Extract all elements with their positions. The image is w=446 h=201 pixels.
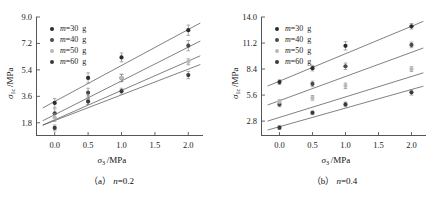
y-tick-label: 7.2 [6,39,32,48]
x-tick-label: 0.5 [76,141,100,150]
legend-item: m=50 g [275,45,311,56]
figure-two-panel-scatter: 1.83.65.47.29.00.00.51.01.52.0 m=30 gm=4… [0,0,446,201]
legend-a: m=30 gm=40 gm=50 gm=60 g [50,23,86,67]
legend-marker-icon [275,49,279,53]
legend-marker-icon [275,27,279,31]
plot-canvas-b [223,0,446,201]
panel-a: 1.83.65.47.29.00.00.51.01.52.0 m=30 gm=4… [0,0,223,201]
panel-caption-b: （b） n=0.4 [223,174,446,187]
y-tick-label: 9.0 [6,13,32,22]
legend-marker-icon [275,38,279,42]
legend-label: m=50 g [285,47,311,55]
legend-marker-icon [50,49,54,53]
legend-item: m=60 g [275,56,311,67]
x-tick-label: 0.0 [267,141,291,150]
legend-item: m=50 g [50,45,86,56]
legend-marker-icon [275,60,279,64]
legend-marker-icon [50,60,54,64]
legend-label: m=60 g [285,58,311,66]
legend-item: m=60 g [50,56,86,67]
x-tick-label: 1.0 [110,141,134,150]
x-tick-label: 1.5 [366,141,390,150]
legend-label: m=50 g [60,47,86,55]
legend-marker-icon [50,38,54,42]
y-tick-label: 11.2 [231,39,257,48]
legend-item: m=40 g [275,34,311,45]
legend-label: m=40 g [285,36,311,44]
x-tick-label: 1.0 [333,141,357,150]
y-tick-label: 14.0 [231,13,257,22]
y-tick-label: 1.8 [6,119,32,128]
legend-label: m=60 g [60,58,86,66]
legend-item: m=40 g [50,34,86,45]
legend-b: m=30 gm=40 gm=50 gm=60 g [275,23,311,67]
y-axis-label-a: σ1c /MPa [5,67,16,99]
panel-b: 2.85.68.411.214.00.00.51.01.52.0 m=30 gm… [223,0,446,201]
legend-label: m=30 g [60,25,86,33]
legend-label: m=30 g [285,25,311,33]
legend-item: m=30 g [275,23,311,34]
plot-canvas-a [0,0,223,201]
x-axis-label-b: σ3 /MPa [322,155,351,166]
panel-caption-a: （a） n=0.2 [0,174,223,187]
x-tick-label: 2.0 [176,141,200,150]
legend-marker-icon [50,27,54,31]
x-axis-label-a: σ3 /MPa [98,155,127,166]
x-tick-label: 1.5 [143,141,167,150]
legend-item: m=30 g [50,23,86,34]
x-tick-label: 0.0 [43,141,67,150]
legend-label: m=40 g [60,36,86,44]
x-tick-label: 0.5 [300,141,324,150]
y-tick-label: 2.8 [231,117,257,126]
y-axis-label-b: σ1c /MPa [230,67,241,99]
x-tick-label: 2.0 [399,141,423,150]
